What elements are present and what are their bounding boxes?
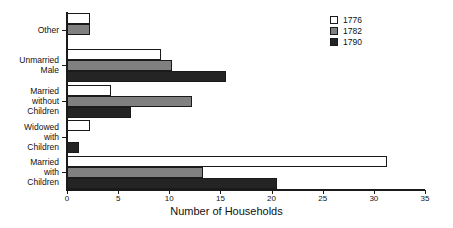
bar-group	[67, 49, 425, 82]
category-label: Other	[38, 25, 59, 35]
legend-item-label: 1790	[343, 37, 362, 47]
bar-1782	[67, 24, 90, 35]
category-label: Widowed with Children	[24, 122, 59, 152]
x-axis-tick-label: 20	[267, 194, 276, 203]
legend-item-label: 1776	[343, 15, 362, 25]
bar-1776	[67, 85, 111, 96]
category-label: Married with Children	[27, 157, 59, 187]
legend-swatch-icon	[330, 27, 338, 35]
bar-group	[67, 13, 425, 46]
bar-1776	[67, 120, 90, 131]
y-axis-tick	[62, 65, 66, 66]
y-axis-tick	[62, 30, 66, 31]
x-axis-tick-label: 10	[165, 194, 174, 203]
x-axis-tick-label: 25	[318, 194, 327, 203]
bar-group	[67, 85, 425, 118]
bar-1776	[67, 13, 90, 24]
x-axis-tick-label: 15	[216, 194, 225, 203]
category-label: Unmarried Male	[19, 55, 59, 75]
legend-item: 1776	[330, 14, 362, 25]
bar-1782	[67, 60, 172, 71]
chart-figure: OtherUnmarried MaleMarried without Child…	[0, 0, 453, 228]
bar-1790	[67, 178, 277, 189]
legend-item: 1782	[330, 25, 362, 36]
plot-area	[67, 12, 425, 190]
bar-1776	[67, 49, 161, 60]
bar-1790	[67, 71, 226, 82]
x-axis-tick-label: 35	[421, 194, 430, 203]
bar-1776	[67, 156, 387, 167]
category-label: Married without Children	[27, 86, 59, 116]
bar-group	[67, 156, 425, 189]
legend-item: 1790	[330, 36, 362, 47]
x-axis-tick-label: 30	[369, 194, 378, 203]
bar-1782	[67, 167, 203, 178]
x-axis-tick-label: 5	[116, 194, 120, 203]
legend-swatch-icon	[330, 16, 338, 24]
x-axis-title: Number of Households	[0, 205, 453, 217]
bar-1782	[67, 96, 192, 107]
legend-item-label: 1782	[343, 26, 362, 36]
bar-1790	[67, 142, 79, 153]
legend-swatch-icon	[330, 38, 338, 46]
x-axis-tick-label: 0	[65, 194, 69, 203]
bar-group	[67, 120, 425, 153]
y-axis-tick	[62, 172, 66, 173]
y-axis-tick	[62, 137, 66, 138]
y-axis-tick	[62, 101, 66, 102]
legend: 177617821790	[330, 14, 362, 47]
bar-1790	[67, 107, 131, 118]
